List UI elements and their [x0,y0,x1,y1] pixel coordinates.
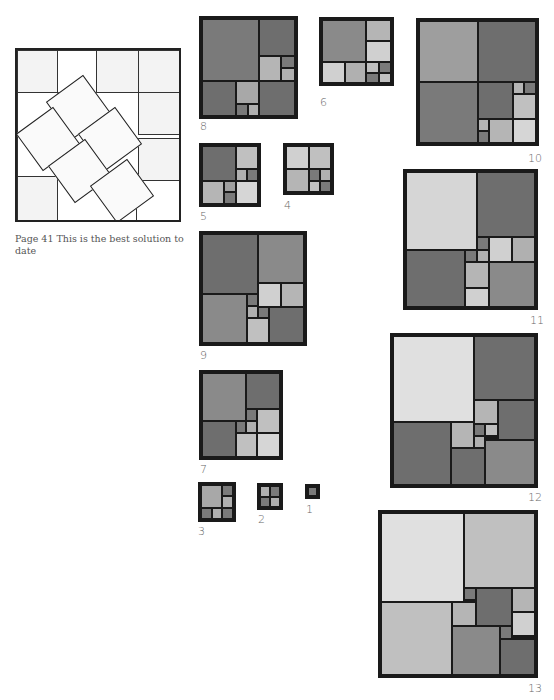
figure-41-diagram [15,48,181,222]
square-label-7: 7 [200,463,207,476]
square-label-13: 13 [528,682,542,695]
squared-square-2 [257,483,283,510]
squared-square-4 [283,143,334,195]
squared-square-13 [378,510,538,678]
squared-square-5 [199,143,261,207]
square-label-3: 3 [198,525,205,538]
squared-square-12 [390,333,538,488]
squared-square-1 [305,484,320,499]
square-label-8: 8 [200,120,207,133]
square-label-1: 1 [306,503,313,516]
square-label-12: 12 [528,491,542,504]
squared-square-8 [199,16,298,119]
square-label-10: 10 [528,152,542,165]
squared-square-7 [199,370,283,460]
square-label-6: 6 [320,96,327,109]
square-label-9: 9 [200,349,207,362]
squared-square-11 [403,169,538,310]
square-label-2: 2 [258,513,265,526]
square-label-5: 5 [200,210,207,223]
square-label-11: 11 [530,314,544,327]
squared-square-6 [319,17,394,86]
square-label-4: 4 [284,199,291,212]
squared-square-9 [199,231,307,346]
figure-41-caption: Page 41 This is the best solution to dat… [15,233,185,257]
squared-square-10 [416,18,539,146]
squared-square-3 [198,482,236,522]
